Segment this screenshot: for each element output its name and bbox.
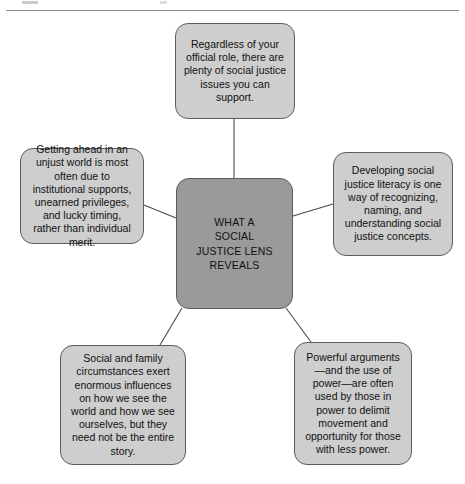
diagram-node-top-text: Regardless of your official role, there … — [176, 38, 294, 104]
diagram-node-center-text: WHAT A SOCIAL JUSTICE LENS REVEALS — [189, 215, 280, 273]
connector-center-to-bottom-right — [286, 308, 311, 342]
connector-center-to-left — [144, 205, 176, 218]
connector-center-to-bottom-left — [160, 308, 182, 345]
diagram-node-bottom-right[interactable]: Powerful arguments—and the use of power—… — [294, 342, 412, 465]
diagram-node-bottom-left[interactable]: Social and family circumstances exert en… — [60, 345, 186, 465]
diagram-node-left-text: Getting ahead in an unjust world is most… — [21, 143, 143, 249]
diagram-node-right[interactable]: Developing social justice literacy is on… — [333, 152, 453, 256]
diagram-canvas: Regardless of your official role, there … — [0, 0, 465, 484]
diagram-node-top[interactable]: Regardless of your official role, there … — [175, 23, 295, 119]
diagram-node-center[interactable]: WHAT A SOCIAL JUSTICE LENS REVEALS — [176, 178, 293, 309]
diagram-node-right-text: Developing social justice literacy is on… — [334, 164, 452, 243]
connector-center-to-right — [293, 204, 333, 216]
diagram-node-bottom-right-text: Powerful arguments—and the use of power—… — [295, 351, 411, 457]
diagram-node-left[interactable]: Getting ahead in an unjust world is most… — [20, 148, 144, 244]
diagram-node-bottom-left-text: Social and family circumstances exert en… — [61, 352, 185, 458]
